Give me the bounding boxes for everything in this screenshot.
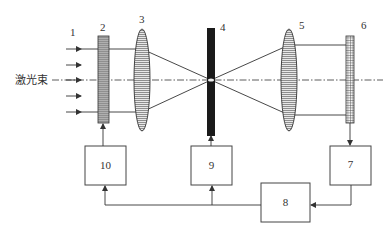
box-10-label: 10 [100, 159, 112, 171]
label-1: 1 [70, 26, 76, 38]
label-4: 4 [220, 21, 226, 33]
box-8-label: 8 [283, 196, 289, 208]
label-6: 6 [361, 19, 367, 31]
label-3: 3 [139, 13, 145, 25]
box-7-label: 7 [348, 158, 354, 170]
label-2: 2 [100, 21, 106, 33]
box-9-label: 9 [209, 159, 215, 171]
label-5: 5 [299, 19, 305, 31]
focus-spot [208, 78, 214, 81]
incident-beam-arrows [66, 49, 81, 112]
lens-left [134, 29, 150, 131]
optical-diagram: 激光束 1 2 3 4 5 6 10 9 7 8 [0, 0, 391, 236]
lens-right [281, 29, 297, 131]
black-plate [207, 28, 215, 136]
axis-label: 激光束 [15, 73, 48, 87]
striped-plate [98, 36, 109, 123]
grid-detector [346, 36, 354, 123]
